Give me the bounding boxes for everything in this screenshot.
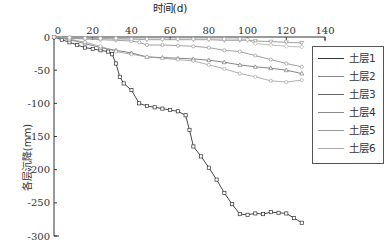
diamond-marker-icon: [300, 45, 304, 49]
legend-label: 土层1: [349, 51, 376, 65]
legend-swatch-icon: [318, 130, 344, 131]
x-tick-label: 40: [125, 25, 138, 36]
square-marker-icon: [207, 166, 210, 169]
legend-item-3: 土层3: [313, 87, 383, 101]
square-marker-icon: [292, 216, 295, 219]
y-axis-label: 各层沉降(mm): [19, 108, 34, 208]
x-tick-label: 80: [202, 25, 215, 36]
legend-label: 土层2: [349, 69, 376, 83]
legend-item-1: 土层1: [313, 51, 383, 65]
circle-marker-icon: [300, 79, 303, 82]
diamond-marker-icon: [284, 44, 288, 48]
circle-marker-icon: [300, 65, 303, 68]
series-1: [52, 35, 303, 224]
circle-marker-icon: [254, 54, 257, 57]
circle-marker-icon: [161, 43, 164, 46]
square-marker-icon: [110, 53, 113, 56]
circle-marker-icon: [223, 67, 226, 70]
square-marker-icon: [285, 212, 288, 215]
square-marker-icon: [176, 110, 179, 113]
circle-marker-icon: [130, 53, 133, 56]
circle-marker-icon: [176, 44, 179, 47]
circle-marker-icon: [83, 41, 86, 44]
square-marker-icon: [161, 107, 164, 110]
circle-marker-icon: [285, 81, 288, 84]
x-tick-label: 100: [238, 25, 257, 36]
x-tick-label: 0: [55, 25, 61, 36]
circle-marker-icon: [145, 43, 148, 46]
circle-marker-icon: [285, 62, 288, 65]
square-marker-icon: [269, 211, 272, 214]
circle-marker-icon: [99, 45, 102, 48]
diamond-marker-icon: [253, 42, 257, 46]
circle-marker-icon: [254, 75, 257, 78]
circle-marker-icon: [238, 72, 241, 75]
legend-swatch-icon: [318, 94, 344, 95]
diamond-marker-icon: [269, 43, 273, 47]
legend-swatch-icon: [318, 148, 344, 149]
square-marker-icon: [169, 108, 172, 111]
square-marker-icon: [246, 213, 249, 216]
square-marker-icon: [254, 212, 257, 215]
y-tick-label: -50: [34, 65, 50, 76]
square-marker-icon: [215, 178, 218, 181]
legend-label: 土层5: [349, 123, 376, 137]
legend-swatch-icon: [318, 58, 344, 59]
x-tick-label: 20: [86, 25, 99, 36]
circle-marker-icon: [238, 50, 241, 53]
square-marker-icon: [238, 213, 241, 216]
square-marker-icon: [107, 50, 110, 53]
diamond-marker-icon: [246, 38, 250, 42]
square-marker-icon: [138, 102, 141, 105]
circle-marker-icon: [207, 63, 210, 66]
square-marker-icon: [230, 203, 233, 206]
square-marker-icon: [184, 114, 187, 117]
circle-marker-icon: [223, 49, 226, 52]
legend-swatch-icon: [318, 112, 344, 113]
square-marker-icon: [261, 213, 264, 216]
square-marker-icon: [114, 62, 117, 65]
series-5: [52, 35, 303, 83]
diamond-marker-icon: [145, 37, 149, 41]
legend-item-4: 土层4: [313, 105, 383, 119]
square-marker-icon: [83, 46, 86, 49]
circle-marker-icon: [114, 50, 117, 53]
square-marker-icon: [153, 106, 156, 109]
x-tick-label: 120: [277, 25, 296, 36]
square-marker-icon: [130, 88, 133, 91]
legend-item-5: 土层5: [313, 123, 383, 137]
series-group: [52, 35, 304, 224]
diamond-marker-icon: [176, 37, 180, 41]
legend-item-2: 土层2: [313, 69, 383, 83]
circle-marker-icon: [145, 55, 148, 58]
legend-swatch-icon: [318, 76, 344, 77]
circle-marker-icon: [269, 58, 272, 61]
circle-marker-icon: [176, 58, 179, 61]
square-marker-icon: [192, 145, 195, 148]
circle-marker-icon: [138, 41, 141, 44]
square-marker-icon: [122, 82, 125, 85]
diamond-marker-icon: [160, 37, 164, 41]
circle-marker-icon: [207, 46, 210, 49]
square-marker-icon: [118, 75, 121, 78]
circle-marker-icon: [192, 45, 195, 48]
x-tick-label: 60: [164, 25, 177, 36]
legend-label: 土层3: [349, 87, 376, 101]
square-marker-icon: [223, 191, 226, 194]
circle-marker-icon: [192, 59, 195, 62]
square-marker-icon: [200, 155, 203, 158]
diamond-marker-icon: [191, 37, 195, 41]
square-marker-icon: [145, 104, 148, 107]
legend-item-6: 土层6: [313, 141, 383, 155]
circle-marker-icon: [269, 79, 272, 82]
square-marker-icon: [277, 211, 280, 214]
square-marker-icon: [188, 128, 191, 131]
square-marker-icon: [76, 43, 79, 46]
diamond-marker-icon: [207, 37, 211, 41]
axes: 0204060801001201400-50-100-150-200-250-3…: [28, 25, 335, 242]
x-tick-label: 140: [315, 25, 334, 36]
y-tick-label: -300: [28, 231, 50, 242]
y-tick-label: 0: [44, 32, 50, 43]
legend-label: 土层6: [349, 141, 376, 155]
x-axis-label: 时间(d): [153, 2, 188, 14]
